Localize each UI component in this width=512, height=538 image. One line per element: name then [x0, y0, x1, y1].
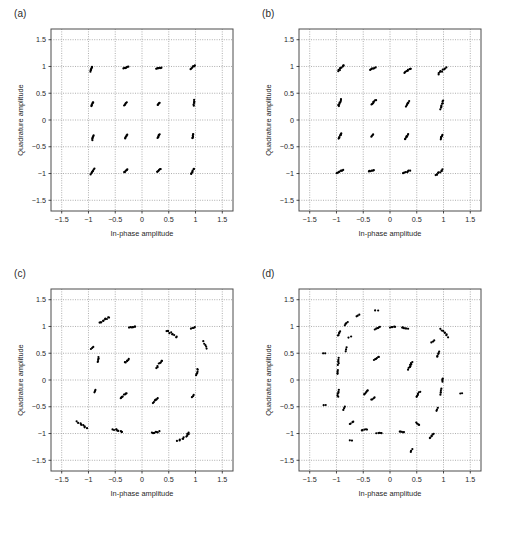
y-tick-label: −1.5: [32, 456, 46, 465]
data-point: [97, 356, 99, 358]
scatter-plot: −1.5−1.5−1−1−0.5−0.5000.50.5111.51.5In-p…: [14, 268, 245, 503]
data-point: [80, 424, 82, 426]
data-point: [113, 429, 115, 431]
data-point: [433, 339, 435, 341]
data-point: [171, 333, 173, 335]
y-tick-label: 0.5: [284, 89, 294, 98]
y-tick-label: −1: [286, 429, 294, 438]
data-point: [394, 326, 396, 328]
data-point: [349, 439, 351, 441]
grid-lines: [299, 289, 481, 471]
data-point: [439, 328, 441, 330]
data-point: [339, 330, 341, 332]
data-point: [196, 371, 198, 373]
x-tick-label: −1: [84, 215, 92, 224]
x-tick-label: −1: [332, 215, 340, 224]
grid-lines: [299, 29, 481, 211]
data-point: [438, 351, 440, 353]
y-tick-label: −1.5: [32, 196, 46, 205]
x-tick-label: 0: [388, 215, 392, 224]
data-point: [158, 102, 160, 104]
data-point: [447, 336, 449, 338]
scatter-plot: −1.5−1.5−1−1−0.5−0.5000.50.5111.51.5In-p…: [14, 8, 245, 243]
x-tick-label: 1.5: [465, 215, 475, 224]
axis-ticks: −1.5−1.5−1−1−0.5−0.5000.50.5111.51.5: [280, 295, 475, 484]
data-point: [160, 168, 162, 170]
data-point: [340, 98, 342, 100]
y-tick-label: −0.5: [32, 402, 46, 411]
data-point: [347, 321, 349, 323]
data-point: [127, 66, 129, 68]
y-axis-label: Quadrature amplitude: [264, 84, 273, 156]
data-point: [176, 440, 178, 442]
data-point: [442, 102, 444, 104]
data-point: [337, 369, 339, 371]
data-point: [375, 66, 377, 68]
data-point: [205, 348, 207, 350]
data-point: [176, 336, 178, 338]
y-tick-label: 0: [290, 376, 294, 385]
data-point: [346, 346, 348, 348]
data-point: [86, 427, 88, 429]
data-point: [93, 167, 95, 169]
data-point: [121, 431, 123, 433]
data-point: [194, 64, 196, 66]
data-point: [167, 330, 169, 332]
data-point: [439, 394, 441, 396]
y-tick-label: −1: [38, 169, 46, 178]
data-point: [419, 391, 421, 393]
data-point: [92, 346, 94, 348]
x-tick-label: −1: [84, 475, 92, 484]
panel-d: (d)−1.5−1.5−1−1−0.5−0.5000.50.5111.51.5I…: [262, 268, 493, 503]
data-point: [407, 133, 409, 135]
data-point: [411, 448, 413, 450]
data-point: [117, 430, 119, 432]
data-point: [324, 352, 326, 354]
y-tick-label: 0.5: [36, 349, 46, 358]
y-tick-label: 0: [42, 116, 46, 125]
x-tick-label: −0.5: [356, 215, 370, 224]
data-point: [94, 389, 96, 391]
data-point: [436, 355, 438, 357]
x-tick-label: −1: [332, 475, 340, 484]
data-point: [179, 439, 181, 441]
data-point: [442, 330, 444, 332]
data-point: [407, 328, 409, 330]
data-point: [440, 388, 442, 390]
data-point: [442, 377, 444, 379]
data-point: [202, 340, 204, 342]
y-axis-label: Quadrature amplitude: [16, 84, 25, 156]
data-point: [379, 326, 381, 328]
axis-ticks: −1.5−1.5−1−1−0.5−0.5000.50.5111.51.5: [32, 295, 227, 484]
data-point: [418, 424, 420, 426]
data-point: [433, 433, 435, 435]
data-point: [372, 133, 374, 135]
data-point: [374, 309, 376, 311]
data-point: [437, 407, 439, 409]
data-point: [347, 336, 349, 338]
axis-ticks: −1.5−1.5−1−1−0.5−0.5000.50.5111.51.5: [32, 35, 227, 224]
data-point: [337, 391, 339, 393]
data-point: [159, 133, 161, 135]
data-point: [366, 428, 368, 430]
y-tick-label: 1: [290, 322, 294, 331]
data-point: [403, 431, 405, 433]
data-point: [92, 101, 94, 103]
data-point: [345, 348, 347, 350]
y-tick-label: −1: [38, 429, 46, 438]
data-point: [411, 361, 413, 363]
y-tick-label: 1: [290, 62, 294, 71]
data-point: [373, 169, 375, 171]
data-point: [338, 389, 340, 391]
data-point: [325, 404, 327, 406]
data-point: [108, 316, 110, 318]
x-axis-label: In-phase amplitude: [111, 489, 174, 498]
data-point: [183, 436, 185, 438]
data-point: [344, 406, 346, 408]
data-point: [441, 168, 443, 170]
x-tick-label: 1: [194, 475, 198, 484]
x-tick-label: 0: [388, 475, 392, 484]
data-point: [445, 66, 447, 68]
x-tick-label: 0.5: [412, 215, 422, 224]
data-point: [361, 429, 363, 431]
